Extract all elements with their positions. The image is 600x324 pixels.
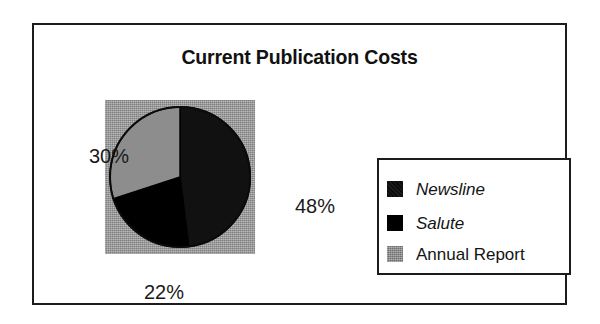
pie-plot-area (105, 100, 255, 254)
legend-item-salute[interactable]: Salute (387, 212, 464, 234)
value-label-salute: 22% (144, 281, 184, 304)
chart-legend: Newsline Salute Annual Report (377, 158, 571, 275)
chart-screenshot: Current Publication Costs 30% 48% 22% Ne… (0, 0, 600, 324)
pie-slice-newsline[interactable] (180, 107, 250, 247)
legend-item-newsline[interactable]: Newsline (387, 178, 485, 200)
legend-label-annual-report: Annual Report (416, 246, 525, 263)
value-label-newsline: 48% (295, 195, 335, 218)
pie-chart (108, 105, 252, 249)
chart-title: Current Publication Costs (53, 45, 547, 69)
legend-swatch-salute-icon (387, 215, 403, 231)
legend-label-newsline: Newsline (416, 181, 485, 198)
legend-label-salute: Salute (416, 215, 464, 232)
value-label-annual-report: 30% (89, 145, 129, 168)
chart-frame: Current Publication Costs 30% 48% 22% Ne… (32, 23, 567, 305)
legend-item-annual-report[interactable]: Annual Report (387, 243, 525, 265)
legend-swatch-annual-report-icon (387, 246, 403, 262)
legend-swatch-newsline-icon (387, 181, 403, 197)
